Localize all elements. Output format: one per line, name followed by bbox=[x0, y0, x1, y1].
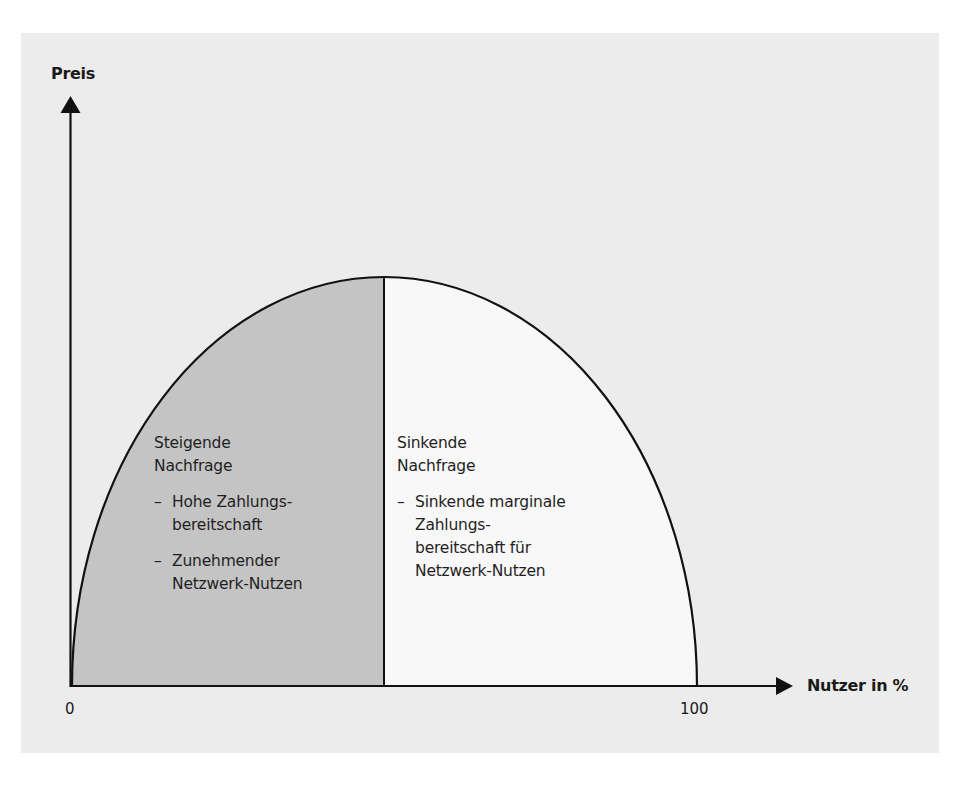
bullet-line: Hohe Zahlungs- bbox=[172, 491, 303, 514]
falling-demand-heading-line-1: Sinkende bbox=[397, 432, 565, 455]
bullet-line: Zunehmender bbox=[172, 550, 303, 573]
bullet-line: bereitschaft für bbox=[415, 537, 565, 560]
bullet-line: bereitschaft bbox=[172, 514, 303, 537]
dash-bullet-icon: – bbox=[397, 491, 405, 514]
rising-demand-heading-line-2: Nachfrage bbox=[154, 455, 303, 478]
rising-demand-bullet-1: – Hohe Zahlungs- bereitschaft bbox=[154, 491, 303, 537]
demand-curve-diagram bbox=[0, 0, 966, 785]
bullet-line: Zahlungs- bbox=[415, 514, 565, 537]
x-tick-100: 100 bbox=[680, 700, 709, 718]
bullet-line: Netzwerk-Nutzen bbox=[172, 573, 303, 596]
rising-demand-annotation: Steigende Nachfrage – Hohe Zahlungs- ber… bbox=[154, 432, 303, 596]
x-axis-arrow-icon bbox=[776, 677, 793, 695]
y-axis-arrow-icon bbox=[61, 96, 81, 113]
dash-bullet-icon: – bbox=[154, 491, 162, 514]
bullet-line: Netzwerk-Nutzen bbox=[415, 560, 565, 583]
falling-demand-heading-line-2: Nachfrage bbox=[397, 455, 565, 478]
x-axis-label: Nutzer in % bbox=[807, 676, 908, 695]
y-axis-label: Preis bbox=[51, 64, 95, 83]
rising-demand-heading-line-1: Steigende bbox=[154, 432, 303, 455]
rising-demand-bullet-2: – Zunehmender Netzwerk-Nutzen bbox=[154, 550, 303, 596]
x-tick-0: 0 bbox=[65, 700, 75, 718]
falling-demand-bullet-1: – Sinkende marginale Zahlungs- bereitsch… bbox=[397, 491, 565, 583]
dash-bullet-icon: – bbox=[154, 550, 162, 573]
bullet-line: Sinkende marginale bbox=[415, 491, 565, 514]
falling-demand-annotation: Sinkende Nachfrage – Sinkende marginale … bbox=[397, 432, 565, 583]
